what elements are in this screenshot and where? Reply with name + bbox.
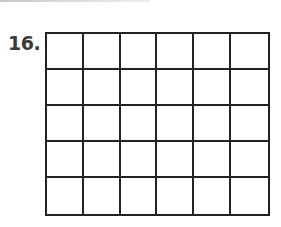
- grid-cell: [231, 178, 268, 214]
- grid-cell: [84, 142, 121, 178]
- grid-cell: [84, 178, 121, 214]
- grid-cell: [157, 178, 194, 214]
- grid-cell: [231, 34, 268, 70]
- grid-cell: [194, 106, 231, 142]
- grid-cell: [157, 106, 194, 142]
- grid-cell: [157, 70, 194, 106]
- grid-cell: [47, 34, 84, 70]
- grid-cell: [84, 34, 121, 70]
- grid-cell: [121, 34, 158, 70]
- rectangle-grid: [45, 32, 270, 216]
- grid-cell: [231, 70, 268, 106]
- grid-cell: [231, 106, 268, 142]
- grid-cell: [84, 106, 121, 142]
- grid-cell: [47, 106, 84, 142]
- grid-cell: [157, 142, 194, 178]
- grid-cell: [121, 178, 158, 214]
- grid-cell: [121, 106, 158, 142]
- grid-cell: [47, 178, 84, 214]
- grid-cell: [194, 34, 231, 70]
- grid-cell: [121, 142, 158, 178]
- grid-cell: [121, 70, 158, 106]
- problem-number: 16.: [8, 32, 40, 54]
- grid-cell: [194, 178, 231, 214]
- grid-cell: [47, 142, 84, 178]
- grid-cell: [157, 34, 194, 70]
- grid-cell: [194, 142, 231, 178]
- page-edge-line: [0, 0, 150, 2]
- grid-cell: [84, 70, 121, 106]
- grid-cell: [47, 70, 84, 106]
- grid-cell: [231, 142, 268, 178]
- grid-cell: [194, 70, 231, 106]
